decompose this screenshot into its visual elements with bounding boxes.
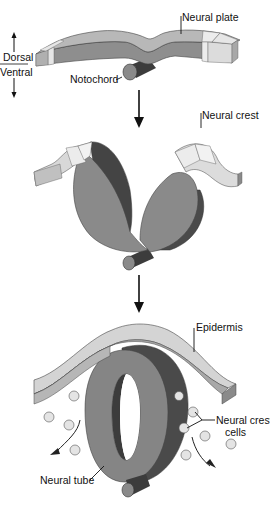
neural-crest-cells-label-line1: Neural crest — [216, 414, 270, 426]
neural-crest-label: Neural crest — [202, 109, 259, 121]
neurulation-diagram: Dorsal Ventral Neural plate Notochord — [0, 0, 270, 514]
notochord-label: Notochord — [70, 73, 119, 85]
neural-plate-stage — [36, 30, 240, 80]
neural-crest-cells-leader-2 — [187, 420, 202, 428]
neural-tube-label: Neural tube — [40, 474, 94, 486]
epidermis-label: Epidermis — [196, 321, 243, 333]
dorsal-label: Dorsal — [3, 51, 33, 63]
down-arrow-icon — [134, 275, 144, 313]
down-arrow-icon — [134, 90, 144, 128]
neural-plate-label: Neural plate — [182, 11, 239, 23]
dorsal-ventral-axis — [0, 32, 28, 98]
neural-fold-stage — [34, 142, 242, 270]
ventral-label: Ventral — [0, 66, 33, 78]
neural-crest-cells-label-line2: cells — [225, 426, 246, 438]
neural-tube-stage — [34, 324, 236, 497]
